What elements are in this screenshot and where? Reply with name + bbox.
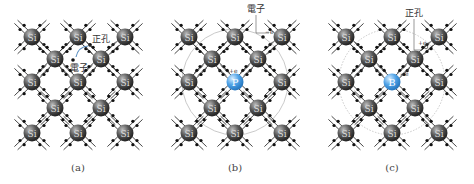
bond-electron bbox=[356, 139, 359, 142]
atom-label: Si bbox=[73, 129, 82, 139]
bond-electron bbox=[355, 50, 358, 53]
atom-label: Si bbox=[434, 33, 443, 43]
bond-electron bbox=[199, 124, 202, 127]
bond-electron bbox=[356, 73, 359, 76]
bond-electron bbox=[402, 28, 405, 31]
bond-electron bbox=[332, 28, 335, 31]
bond-electron bbox=[425, 50, 428, 53]
bond-electron bbox=[116, 120, 119, 123]
bond-electron bbox=[360, 46, 363, 49]
bond-electron bbox=[221, 28, 224, 31]
bond-electron bbox=[38, 69, 41, 72]
bond-electron bbox=[23, 69, 26, 72]
atom-label: Si bbox=[364, 55, 373, 65]
bond-electron bbox=[245, 124, 248, 127]
bond-electron bbox=[42, 73, 45, 76]
bond-electron bbox=[401, 114, 404, 117]
bond-electron bbox=[425, 28, 428, 31]
panel-caption: (b) bbox=[228, 162, 242, 173]
bond-electron bbox=[111, 28, 114, 31]
bond-electron bbox=[445, 143, 448, 146]
bond-electron bbox=[65, 114, 68, 117]
bond-electron bbox=[221, 88, 224, 91]
bond-electron bbox=[64, 139, 67, 142]
bond-electron bbox=[18, 139, 21, 142]
bond-electron bbox=[406, 95, 409, 98]
bond-electron bbox=[375, 46, 378, 49]
atom-label: Si bbox=[184, 129, 193, 139]
bond-electron bbox=[195, 120, 198, 123]
atom-label: Si bbox=[434, 78, 443, 88]
bond-electron bbox=[64, 88, 67, 91]
bond-electron bbox=[46, 46, 49, 49]
bond-electron bbox=[378, 124, 381, 127]
atom-label: B bbox=[388, 77, 395, 88]
bond-electron bbox=[398, 92, 401, 95]
bond-electron bbox=[131, 143, 134, 146]
atom-label: Si bbox=[341, 78, 350, 88]
bond-electron bbox=[92, 46, 95, 49]
bond-electron bbox=[244, 99, 247, 102]
atom-label: Si bbox=[27, 33, 36, 43]
center-charge: +e bbox=[229, 67, 238, 74]
hole-label: 正孔 bbox=[405, 8, 423, 18]
bond-electron bbox=[65, 50, 68, 53]
bond-electron bbox=[88, 28, 91, 31]
bond-electron bbox=[198, 50, 201, 53]
bond-electron bbox=[355, 99, 358, 102]
bond-electron bbox=[268, 50, 271, 53]
atom-label: Si bbox=[434, 129, 443, 139]
bond-electron bbox=[430, 143, 433, 146]
bond-electron bbox=[425, 88, 428, 91]
electron-label: 電子 bbox=[70, 63, 88, 73]
electron-label: 電子 bbox=[247, 4, 265, 14]
bond-electron bbox=[449, 28, 452, 31]
bond-electron bbox=[226, 120, 229, 123]
panel-caption: (c) bbox=[385, 162, 399, 173]
bond-electron bbox=[92, 95, 95, 98]
bond-electron bbox=[445, 92, 448, 95]
atom-label: Si bbox=[184, 78, 193, 88]
atom-label: Si bbox=[277, 78, 286, 88]
bond-electron bbox=[356, 88, 359, 91]
bond-electron bbox=[332, 139, 335, 142]
bond-electron bbox=[401, 99, 404, 102]
atom-label: Si bbox=[184, 33, 193, 43]
bond-electron bbox=[401, 50, 404, 53]
bond-electron bbox=[378, 73, 381, 76]
bond-electron bbox=[107, 46, 110, 49]
bond-electron bbox=[241, 120, 244, 123]
bond-electron bbox=[273, 120, 276, 123]
bond-electron bbox=[131, 69, 134, 72]
bond-electron bbox=[84, 92, 87, 95]
bond-electron bbox=[18, 88, 21, 91]
bond-electron bbox=[199, 139, 202, 142]
bond-electron bbox=[38, 92, 41, 95]
panel-a: SiSiSiSiSiSiSiSiSiSiSiSiSi正孔電子(a) bbox=[14, 20, 142, 173]
bond-electron bbox=[379, 114, 382, 117]
bond-electron bbox=[383, 143, 386, 146]
atom-label: Si bbox=[253, 55, 262, 65]
panel-b: SiSiSiSiSiSiPSiSiSiSiSiSi電子−e+e(b) bbox=[171, 4, 299, 173]
bond-electron bbox=[175, 88, 178, 91]
bond-electron bbox=[241, 24, 244, 27]
bond-electron bbox=[131, 92, 134, 95]
bond-electron bbox=[273, 24, 276, 27]
bond-electron bbox=[449, 73, 452, 76]
bond-electron bbox=[180, 47, 183, 50]
bond-electron bbox=[23, 143, 26, 146]
bond-electron bbox=[425, 114, 428, 117]
bond-electron bbox=[292, 43, 295, 46]
free-electron bbox=[71, 58, 75, 62]
bond-electron bbox=[61, 46, 64, 49]
bond-electron bbox=[241, 143, 244, 146]
bond-electron bbox=[402, 124, 405, 127]
bond-electron bbox=[398, 24, 401, 27]
bond-electron bbox=[135, 139, 138, 142]
bond-electron bbox=[249, 46, 252, 49]
bond-electron bbox=[111, 73, 114, 76]
bond-electron bbox=[180, 92, 183, 95]
bond-electron bbox=[425, 73, 428, 76]
bond-electron bbox=[288, 69, 291, 72]
bond-electron bbox=[430, 24, 433, 27]
